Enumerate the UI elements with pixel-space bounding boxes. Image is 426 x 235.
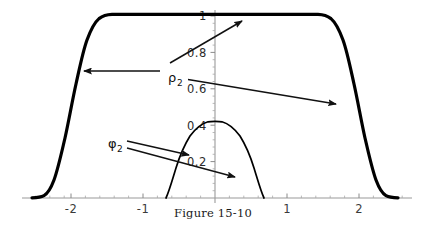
rho-glyph: ρ — [168, 70, 176, 85]
arrow-phi-upper — [127, 141, 189, 155]
plot-canvas: 1 0.8 0.6 0.4 0.2 -2 -1 1 2 ρ 2 φ 2 — [0, 0, 426, 235]
y-tick-label-0-4: 0.4 — [187, 119, 207, 133]
arrow-rho-right — [188, 80, 336, 105]
rho-subscript: 2 — [177, 78, 183, 88]
axes-group — [22, 10, 412, 203]
y-tick-label-0-6: 0.6 — [187, 82, 207, 96]
phi-glyph: φ — [108, 136, 117, 151]
phi-subscript: 2 — [117, 144, 123, 154]
figure-container: 1 0.8 0.6 0.4 0.2 -2 -1 1 2 ρ 2 φ 2 — [0, 0, 426, 235]
label-rho-2: ρ 2 — [168, 70, 183, 88]
figure-caption: Figure 15-10 — [0, 206, 426, 220]
label-phi-2: φ 2 — [108, 136, 123, 154]
